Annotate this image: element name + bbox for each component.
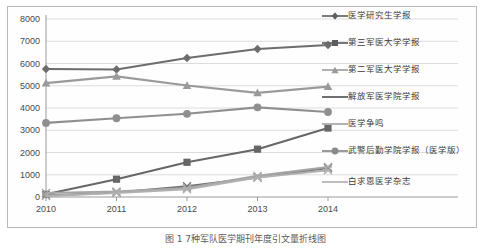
legend-item[interactable]: 解放军医学院学报 <box>322 91 482 118</box>
data-point-diamond <box>42 65 50 73</box>
chart-legend: 医学研究生学报 第三军医大学学报 第二军医大学学报 <box>322 10 482 220</box>
legend-item[interactable]: 白求恩医学杂志 <box>322 176 482 203</box>
data-point-square <box>254 146 261 153</box>
data-point-circle <box>183 110 191 118</box>
legend-item-label: 医学研究生学报 <box>348 10 482 20</box>
y-axis-tick-label: 1000 <box>20 170 40 180</box>
legend-item-label: 白求恩医学杂志 <box>348 176 482 186</box>
data-point-diamond <box>253 45 261 53</box>
legend-marker-line-icon <box>322 177 348 187</box>
y-axis-tick-label: 4000 <box>20 103 40 113</box>
legend-item[interactable]: 第二军医大学学报 <box>322 64 482 91</box>
legend-item[interactable]: 武警后勤学院学报（医学版） <box>322 145 482 176</box>
legend-item-label: 解放军医学院学报 <box>348 91 482 101</box>
legend-item[interactable]: 医学研究生学报 <box>322 10 482 37</box>
y-axis-tick-label: 5000 <box>20 81 40 91</box>
y-axis-tick-label: 0 <box>35 192 40 202</box>
legend-item[interactable]: 医学争鸣 <box>322 118 482 145</box>
data-point-circle <box>254 103 262 111</box>
data-point-diamond <box>183 54 191 62</box>
figure-container: 0100020003000400050006000700080002010201… <box>0 0 491 250</box>
legend-item-label: 武警后勤学院学报（医学版） <box>348 145 482 155</box>
legend-marker-line-icon <box>322 92 348 102</box>
legend-marker-triangle-icon <box>322 65 348 75</box>
x-axis-tick-label: 2011 <box>107 204 126 214</box>
legend-marker-square-icon <box>322 38 348 48</box>
legend-item-label: 医学争鸣 <box>348 118 482 128</box>
y-axis-tick-label: 8000 <box>20 14 40 24</box>
y-axis-tick-label: 7000 <box>20 36 40 46</box>
legend-marker-diamond-icon <box>322 11 348 21</box>
legend-marker-line-icon <box>322 119 348 129</box>
data-point-square <box>113 176 120 183</box>
figure-caption: 图 1 7种军队医学期刊年度引文量折线图 <box>0 232 491 250</box>
y-axis-tick-label: 2000 <box>20 148 40 158</box>
legend-marker-circle-icon <box>322 146 348 156</box>
x-axis-tick-label: 2012 <box>177 204 197 214</box>
data-point-square <box>183 159 190 166</box>
x-axis-tick-label: 2010 <box>36 204 56 214</box>
legend-item[interactable]: 第三军医大学学报 <box>322 37 482 64</box>
y-axis-tick-label: 3000 <box>20 125 40 135</box>
legend-item-label: 第二军医大学学报 <box>348 64 482 74</box>
y-axis-tick-label: 6000 <box>20 59 40 69</box>
data-point-circle <box>42 119 50 127</box>
x-axis-tick-label: 2013 <box>247 204 267 214</box>
legend-item-label: 第三军医大学学报 <box>348 37 482 47</box>
data-point-circle <box>113 114 121 122</box>
